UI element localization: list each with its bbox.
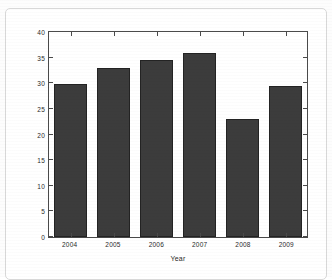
y-tick-label: 20 — [37, 131, 45, 138]
bar-2004 — [54, 84, 88, 237]
bar-2009 — [269, 86, 303, 237]
x-tick-label: 2005 — [91, 241, 134, 248]
x-tick-top — [157, 32, 158, 36]
y-tick-right — [303, 57, 307, 58]
bar-slot — [92, 32, 135, 237]
x-tick-bottom — [200, 233, 201, 237]
y-tick-right — [303, 82, 307, 83]
bar-2008 — [226, 119, 260, 237]
y-tick-label: 0 — [41, 234, 45, 241]
y-tick-right — [303, 31, 307, 32]
x-axis-title: Year — [48, 255, 308, 262]
y-tick-left — [49, 185, 53, 186]
bar-slot — [49, 32, 92, 237]
y-tick-left — [49, 159, 53, 160]
y-tick-right — [303, 210, 307, 211]
bar-slot — [135, 32, 178, 237]
x-tick-top — [200, 32, 201, 36]
x-tick-label: 2006 — [135, 241, 178, 248]
bar-slot — [264, 32, 307, 237]
y-tick-label: 40 — [37, 29, 45, 36]
x-tick-bottom — [157, 233, 158, 237]
y-tick-left — [49, 82, 53, 83]
bar-series — [49, 32, 307, 237]
x-tick-bottom — [243, 233, 244, 237]
y-tick-label: 30 — [37, 80, 45, 87]
x-axis-tick-labels: 200420052006200720082009 — [48, 241, 308, 248]
bar-2006 — [140, 60, 174, 237]
x-tick-label: 2009 — [265, 241, 308, 248]
y-tick-left — [49, 134, 53, 135]
y-tick-right — [303, 185, 307, 186]
x-tick-label: 2007 — [178, 241, 221, 248]
bar-slot — [178, 32, 221, 237]
y-tick-label: 10 — [37, 182, 45, 189]
y-tick-left — [49, 57, 53, 58]
y-tick-left — [49, 236, 53, 237]
x-tick-top — [114, 32, 115, 36]
x-tick-label: 2004 — [48, 241, 91, 248]
plot-area: 0510152025303540 — [48, 31, 308, 238]
x-tick-label: 2008 — [221, 241, 264, 248]
y-tick-label: 25 — [37, 105, 45, 112]
y-tick-left — [49, 31, 53, 32]
x-tick-bottom — [71, 233, 72, 237]
y-tick-label: 5 — [41, 208, 45, 215]
x-tick-bottom — [114, 233, 115, 237]
plot-inner: 0510152025303540 — [49, 32, 307, 237]
x-tick-top — [71, 32, 72, 36]
y-tick-label: 35 — [37, 54, 45, 61]
y-tick-right — [303, 159, 307, 160]
x-tick-top — [243, 32, 244, 36]
y-tick-right — [303, 108, 307, 109]
x-tick-bottom — [286, 233, 287, 237]
bar-2005 — [97, 68, 131, 237]
y-tick-label: 15 — [37, 157, 45, 164]
y-tick-right — [303, 236, 307, 237]
y-tick-right — [303, 134, 307, 135]
bar-slot — [221, 32, 264, 237]
x-tick-top — [286, 32, 287, 36]
y-tick-left — [49, 108, 53, 109]
bar-2007 — [183, 53, 217, 238]
y-tick-left — [49, 210, 53, 211]
